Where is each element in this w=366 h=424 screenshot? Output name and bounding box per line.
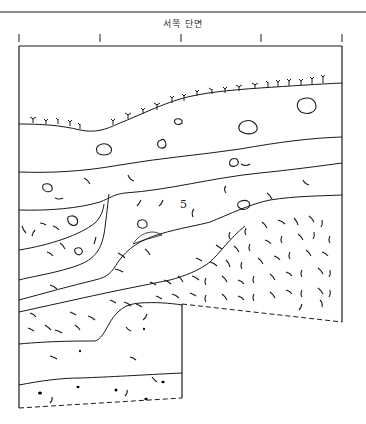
boundary-lens bbox=[19, 303, 182, 344]
section-frame bbox=[19, 46, 342, 408]
layer-label-5: 5 bbox=[180, 198, 187, 211]
stratigraphy-svg: 5 bbox=[0, 0, 366, 424]
stones bbox=[43, 98, 316, 255]
stone-icon bbox=[297, 98, 316, 113]
section-drawing: 서쪽 단면 bbox=[0, 0, 366, 424]
boundary-lower bbox=[19, 226, 245, 312]
boundary-bottom bbox=[19, 373, 182, 385]
stone-icon bbox=[175, 119, 183, 125]
pebbles bbox=[38, 328, 165, 401]
stone-icon bbox=[43, 184, 53, 192]
stone-icon bbox=[68, 216, 78, 226]
boundary-2 bbox=[19, 137, 342, 172]
stone-icon bbox=[158, 139, 166, 148]
boundary-4 bbox=[19, 204, 104, 250]
grass-tufts bbox=[30, 75, 325, 129]
stone-icon bbox=[75, 248, 83, 255]
layer-boundaries bbox=[19, 83, 342, 385]
stone-icon bbox=[138, 220, 148, 228]
soil-inclusions-sparse bbox=[22, 164, 309, 403]
stone-icon bbox=[96, 144, 111, 155]
stone-icon bbox=[230, 158, 239, 166]
stone-icon bbox=[239, 121, 257, 134]
figure-title: 서쪽 단면 bbox=[0, 17, 366, 30]
soil-inclusions-dense bbox=[28, 216, 330, 333]
excavation-bottom-dashed bbox=[19, 304, 342, 408]
scale-ticks bbox=[19, 34, 342, 42]
